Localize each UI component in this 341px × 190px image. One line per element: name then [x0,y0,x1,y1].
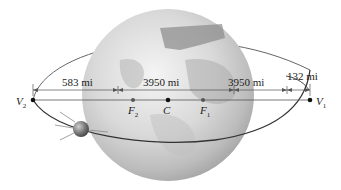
dimension-label-3950-left: 3950 mi [143,77,179,88]
label-f1: F1 [200,105,210,119]
label-v2: V2 [16,96,26,110]
dimension-label-3950-right: 3950 mi [228,77,264,88]
diagram-canvas [0,0,341,190]
dimension-label-132: 132 mi [287,71,318,82]
label-v1: V1 [316,96,326,110]
label-c: C [163,105,170,116]
vertex-v2-dot [31,98,36,103]
focus-f2-dot [131,98,135,102]
label-f2: F2 [128,105,138,119]
center-c-dot [166,98,171,103]
vertex-v1-dot [308,98,313,103]
orbit-diagram: 583 mi 3950 mi 3950 mi 132 mi V2 F2 C F1… [0,0,341,190]
dimension-label-583: 583 mi [62,77,93,88]
focus-f1-dot [201,98,205,102]
